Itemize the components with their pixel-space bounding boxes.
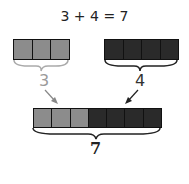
block [34, 109, 52, 127]
block [144, 109, 161, 127]
total-brace-icon [33, 128, 160, 139]
block [107, 109, 125, 127]
block [71, 109, 89, 127]
right-group-label: 4 [135, 71, 145, 90]
combined-bar [33, 108, 162, 128]
total-label: 7 [90, 139, 101, 158]
left-brace-icon [14, 60, 68, 71]
left-group-label: 3 [39, 71, 49, 90]
block [125, 109, 143, 127]
right-brace-icon [105, 60, 177, 71]
block [52, 109, 70, 127]
block [89, 109, 107, 127]
